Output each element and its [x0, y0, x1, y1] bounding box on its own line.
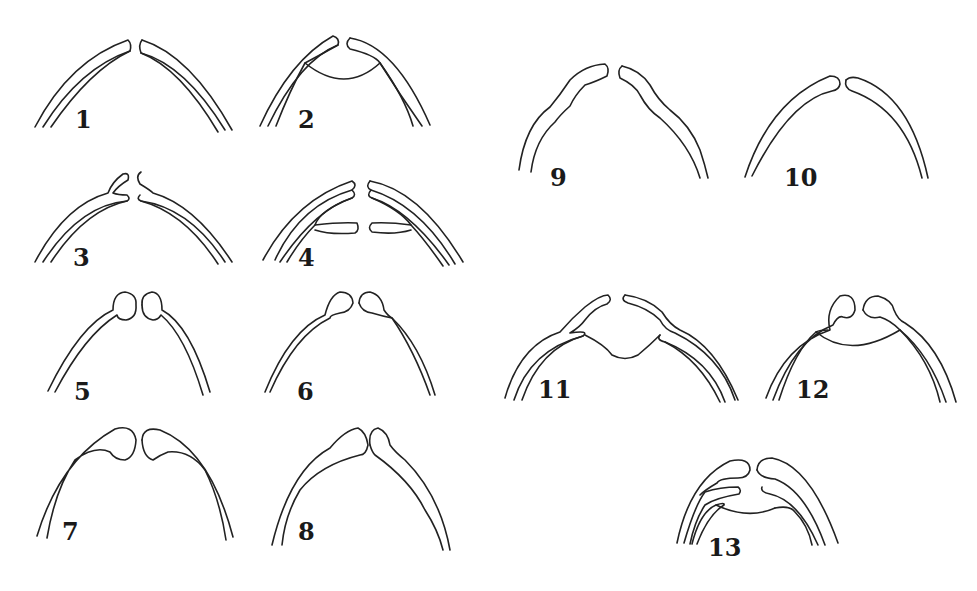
panel-1-label: 1 — [75, 108, 92, 132]
figure-diagram — [0, 0, 977, 591]
panel-9-drawing — [519, 64, 708, 178]
panel-11-label: 11 — [538, 378, 571, 402]
panel-3-drawing — [35, 172, 232, 264]
panel-3-label: 3 — [73, 246, 90, 270]
panel-4-label: 4 — [298, 246, 315, 270]
panel-12-label: 12 — [796, 378, 829, 402]
panel-9-label: 9 — [550, 166, 567, 190]
panel-6-label: 6 — [297, 380, 314, 404]
panel-6-drawing — [265, 292, 435, 395]
panel-5-drawing — [48, 292, 210, 395]
panel-2-label: 2 — [298, 108, 315, 132]
panel-10-label: 10 — [784, 166, 817, 190]
panel-13-drawing — [677, 458, 838, 545]
panel-1-drawing — [35, 40, 232, 132]
panel-7-label: 7 — [62, 520, 79, 544]
panel-8-label: 8 — [298, 520, 315, 544]
panel-4-drawing — [263, 181, 463, 266]
panel-12-drawing — [766, 295, 956, 402]
panel-13-label: 13 — [708, 536, 741, 560]
panel-2-drawing — [260, 36, 430, 126]
panel-5-label: 5 — [74, 380, 91, 404]
panel-10-drawing — [745, 76, 928, 178]
